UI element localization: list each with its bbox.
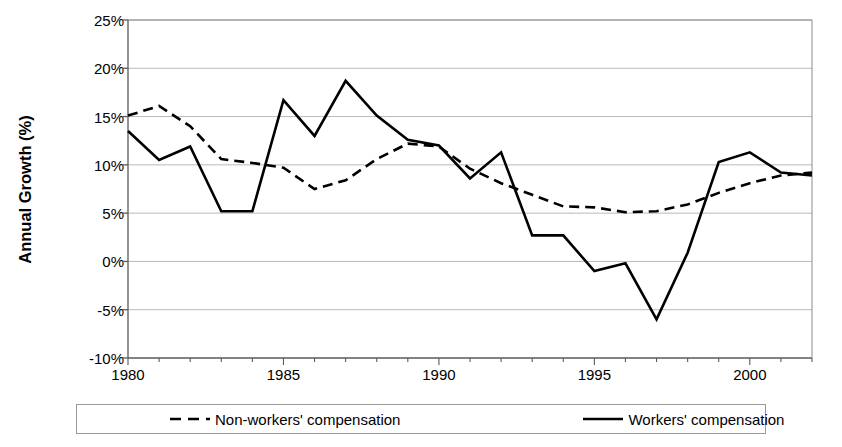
x-axis-tick-label: 1995 bbox=[578, 366, 611, 383]
legend: Non-workers' compensation Workers' compe… bbox=[76, 404, 766, 434]
gridlines bbox=[128, 20, 812, 310]
legend-item-workers-compensation: Workers' compensation bbox=[582, 412, 784, 427]
x-axis-tick-label: 2000 bbox=[733, 366, 766, 383]
data-line-non-workers-compensation bbox=[128, 106, 812, 212]
legend-item-non-workers-compensation: Non-workers' compensation bbox=[169, 412, 400, 427]
x-axis-tick-label: 1990 bbox=[422, 366, 455, 383]
y-axis-ticks bbox=[122, 20, 128, 358]
legend-label-non-workers-compensation: Non-workers' compensation bbox=[215, 412, 400, 427]
chart-container: Annual Growth (%) -10%-5%0%5%10%15%20%25… bbox=[0, 0, 842, 447]
legend-line-solid-icon bbox=[582, 413, 624, 425]
legend-label-workers-compensation: Workers' compensation bbox=[628, 412, 784, 427]
x-axis-tick-labels: 19801985199019952000 bbox=[0, 362, 842, 388]
x-axis-tick-label: 1980 bbox=[111, 366, 144, 383]
x-axis-tick-label: 1985 bbox=[267, 366, 300, 383]
legend-line-dashed-icon bbox=[169, 413, 211, 425]
